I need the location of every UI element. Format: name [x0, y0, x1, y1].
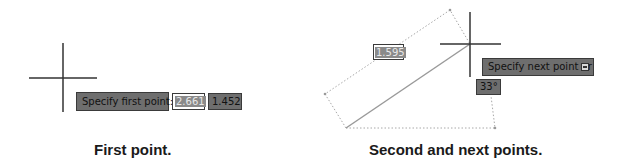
- y-coordinate-field[interactable]: 1.452: [208, 93, 242, 110]
- next-point-prompt-text: Specify next point or: [488, 61, 592, 72]
- length-value: 1.595: [375, 47, 406, 58]
- next-point-prompt: Specify next point or: [482, 58, 594, 76]
- caption-next-points: Second and next points.: [369, 141, 542, 158]
- caption-first-point: First point.: [94, 141, 172, 158]
- rubber-band-line: [346, 44, 470, 128]
- first-point-prompt: Specify first point:: [76, 92, 169, 111]
- drawing-canvas[interactable]: [0, 0, 618, 162]
- dropdown-arrow-icon[interactable]: [581, 63, 589, 71]
- angle-field[interactable]: 33°: [476, 79, 501, 95]
- length-input[interactable]: 1.595: [373, 44, 404, 60]
- x-coordinate-value: 2.661: [175, 96, 206, 107]
- x-coordinate-input[interactable]: 2.661: [172, 93, 205, 110]
